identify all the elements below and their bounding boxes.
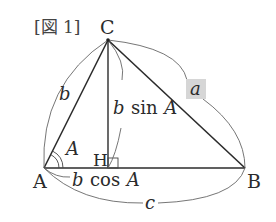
- brace-bsinA-lower: [108, 128, 121, 168]
- right-angle-mark: [108, 158, 118, 168]
- foot-label-A: A: [125, 169, 140, 190]
- brace-bcosA: [44, 168, 70, 177]
- triangle-diagram: [図 1] C A B H b a c A b sin A b cos A: [0, 0, 276, 222]
- height-label-A: A: [162, 97, 177, 118]
- angle-label-A: A: [64, 138, 79, 159]
- brace-c-right: [158, 168, 245, 203]
- brace-a-lower: [203, 99, 245, 168]
- side-label-b: b: [59, 83, 71, 104]
- side-label-c: c: [145, 192, 155, 213]
- side-label-a: a: [190, 78, 201, 99]
- vertex-label-A: A: [32, 170, 47, 192]
- foot-label: b cos A: [72, 169, 140, 190]
- figure-title: [図 1]: [34, 17, 80, 37]
- vertex-label-C: C: [100, 16, 115, 38]
- height-label: b sin A: [113, 97, 177, 118]
- angle-A-arc-outer: [53, 151, 64, 168]
- vertex-C-dot: [106, 38, 110, 42]
- vertex-label-B: B: [247, 170, 261, 192]
- foot-label-cos: cos: [90, 169, 120, 190]
- vertex-label-H: H: [93, 150, 108, 170]
- angle-A-arc-inner: [51, 155, 59, 168]
- foot-label-b: b: [72, 169, 84, 190]
- height-label-b: b: [113, 97, 125, 118]
- height-label-sin: sin: [131, 97, 158, 118]
